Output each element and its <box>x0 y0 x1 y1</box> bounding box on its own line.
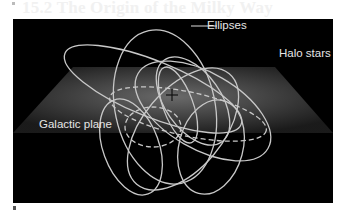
ellipses-label: Ellipses <box>207 19 247 31</box>
bleed-through-heading: 15.2 The Origin of the Milky Way <box>22 0 322 18</box>
halo-stars-label: Halo stars <box>279 47 331 59</box>
galactic-plane-label: Galactic plane <box>39 118 112 130</box>
crop-mark <box>13 206 16 210</box>
halo-orbits-diagram: Ellipses Halo stars Galactic plane <box>13 19 333 203</box>
crop-mark <box>12 2 15 5</box>
